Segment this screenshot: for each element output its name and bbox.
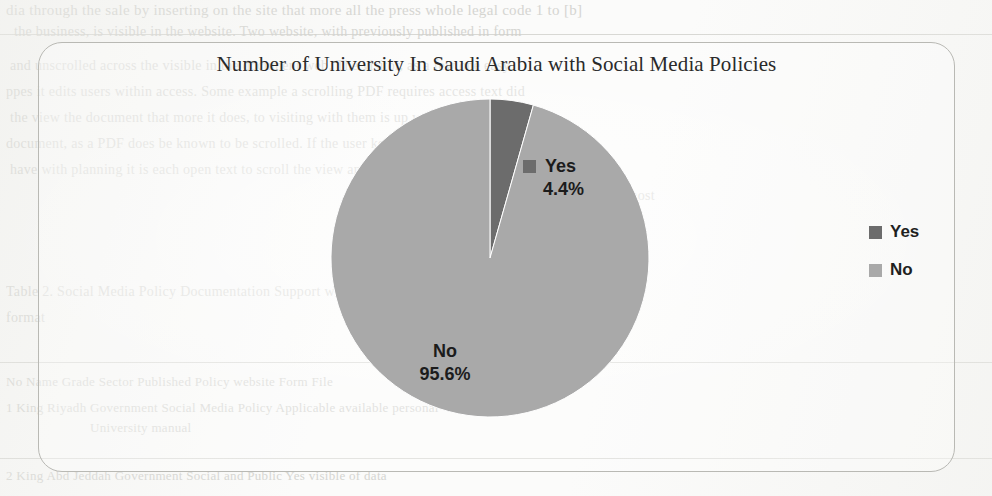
legend-label-yes: Yes xyxy=(890,222,919,242)
data-label-no-name: No xyxy=(400,340,490,363)
scan-rule-top xyxy=(0,34,992,35)
legend-swatch-yes-icon xyxy=(869,226,882,239)
scan-line: the business, is visible in the website.… xyxy=(14,24,522,40)
pie-svg xyxy=(330,98,650,418)
data-label-yes-value: 4.4% xyxy=(543,178,584,201)
legend-label-no: No xyxy=(890,260,913,280)
chart-legend: Yes No xyxy=(869,222,919,280)
scan-line: dia through the sale by inserting on the… xyxy=(6,2,582,19)
pie-chart xyxy=(330,98,650,418)
screenshot-root: dia through the sale by inserting on the… xyxy=(0,0,992,496)
data-label-no: No 95.6% xyxy=(400,340,490,385)
data-label-yes: Yes 4.4% xyxy=(523,155,584,200)
legend-swatch-no-icon xyxy=(869,264,882,277)
data-label-swatch-yes-icon xyxy=(523,160,536,173)
legend-item-yes[interactable]: Yes xyxy=(869,222,919,242)
chart-title: Number of University In Saudi Arabia wit… xyxy=(38,52,955,77)
legend-item-no[interactable]: No xyxy=(869,260,919,280)
data-label-no-value: 95.6% xyxy=(400,363,490,386)
data-label-yes-name: Yes xyxy=(545,155,576,178)
